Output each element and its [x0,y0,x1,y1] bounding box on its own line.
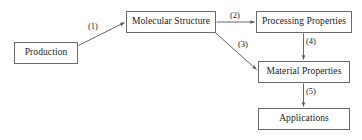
edge-label-4: (4) [306,37,316,46]
edge-label-2: (2) [230,11,240,20]
flow-diagram: Production Molecular Structure Processin… [0,0,362,140]
edge-label-1: (1) [88,22,98,31]
node-molecular-structure-label: Molecular Structure [132,17,210,27]
node-applications-label: Applications [279,114,329,124]
node-processing-properties[interactable]: Processing Properties [256,11,352,33]
node-applications[interactable]: Applications [258,108,350,130]
node-material-properties-label: Material Properties [267,67,342,77]
node-production-label: Production [25,48,68,58]
edge-1-connector [79,23,125,46]
node-molecular-structure[interactable]: Molecular Structure [126,11,216,33]
edge-label-5: (5) [306,87,316,96]
edge-3-connector [214,32,257,70]
edge-label-3: (3) [238,40,248,49]
node-material-properties[interactable]: Material Properties [258,61,350,83]
node-production[interactable]: Production [14,42,78,64]
node-processing-properties-label: Processing Properties [262,17,346,27]
